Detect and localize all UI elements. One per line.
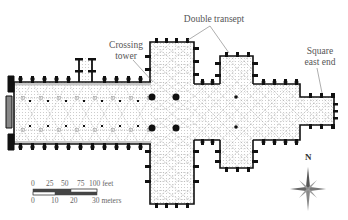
scale-feet-75: 75 bbox=[77, 179, 85, 188]
square-east-end-label-line1: Square bbox=[300, 46, 340, 57]
double-transept-leader-1 bbox=[188, 26, 210, 40]
scale-meters-30: 30 meters bbox=[92, 196, 121, 205]
scale-meters-20: 20 bbox=[70, 196, 78, 205]
crossing-tower-label-line2: tower bbox=[104, 51, 148, 62]
double-transept-leader-2 bbox=[210, 26, 229, 53]
square-east-end-leader bbox=[317, 68, 322, 93]
crossing-tower-label: Crossing tower bbox=[104, 40, 148, 62]
scale-feet-25: 25 bbox=[46, 179, 54, 188]
double-transept-label: Double transept bbox=[182, 14, 246, 25]
scale-feet-0: 0 bbox=[31, 179, 35, 188]
scale-feet-100: 100 feet bbox=[89, 179, 113, 188]
square-east-end-label-line2: east end bbox=[300, 57, 340, 68]
scale-meters-0: 0 bbox=[31, 196, 35, 205]
compass-rose-icon bbox=[290, 167, 326, 211]
crossing-tower-label-line1: Crossing bbox=[104, 40, 148, 51]
scale-meters-10: 10 bbox=[51, 196, 59, 205]
compass-north-label: N bbox=[305, 152, 312, 162]
scale-bar bbox=[33, 189, 97, 195]
square-east-end-label: Square east end bbox=[300, 46, 340, 68]
double-transept-label-text: Double transept bbox=[182, 14, 246, 25]
scale-feet-50: 50 bbox=[61, 179, 69, 188]
